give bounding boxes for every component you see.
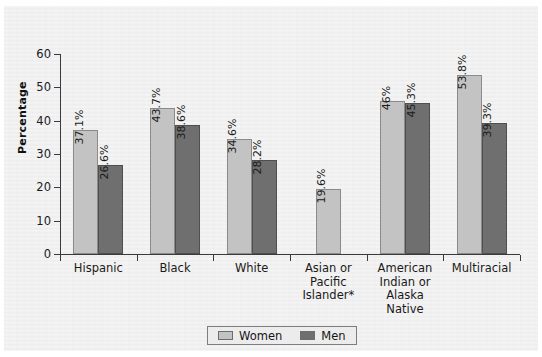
- y-tick-label: 20: [36, 180, 51, 194]
- legend-swatch-men-icon: [300, 331, 315, 340]
- x-tick-mark: [290, 255, 291, 261]
- x-tick-mark: [520, 255, 521, 261]
- legend-entry-men: Men: [300, 329, 345, 343]
- y-tick-label: 10: [36, 214, 51, 228]
- y-tick-mark: [54, 154, 60, 155]
- category-label-line: Islander*: [290, 289, 367, 303]
- category-label: Hispanic: [60, 262, 137, 276]
- y-tick-label: 40: [36, 114, 51, 128]
- bar-men: 28.2%: [252, 160, 277, 254]
- y-tick-label: 60: [36, 47, 51, 61]
- bar-women: 46%: [380, 101, 405, 254]
- legend-label-women: Women: [239, 329, 282, 343]
- y-tick-mark: [54, 187, 60, 188]
- bar-value-label: 39.3%: [481, 103, 494, 138]
- chart-legend: Women Men: [207, 326, 357, 345]
- y-tick-mark: [54, 54, 60, 55]
- bar-value-label: 26.6%: [98, 145, 111, 180]
- category-label-line: Indian or: [367, 276, 444, 290]
- y-tick-mark: [54, 87, 60, 88]
- y-tick-mark: [54, 221, 60, 222]
- legend-entry-women: Women: [218, 329, 282, 343]
- category-label: AmericanIndian orAlaskaNative: [367, 262, 444, 316]
- bar-value-label: 43.7%: [150, 88, 163, 123]
- category-label-line: Multiracial: [443, 262, 520, 276]
- bar-value-label: 34.6%: [226, 118, 239, 153]
- bar-women: 43.7%: [150, 108, 175, 254]
- y-axis-line: [60, 54, 61, 254]
- x-tick-mark: [443, 255, 444, 261]
- bar-value-label: 37.1%: [73, 110, 86, 145]
- x-tick-mark: [60, 255, 61, 261]
- y-axis-title: Percentage: [16, 81, 29, 154]
- y-tick-label: 50: [36, 80, 51, 94]
- bar-women: 37.1%: [73, 130, 98, 254]
- category-label-line: White: [213, 262, 290, 276]
- x-tick-mark: [367, 255, 368, 261]
- category-label-line: Pacific: [290, 276, 367, 290]
- bar-women: 53.8%: [457, 75, 482, 254]
- chart-figure: Percentage 0102030405060 37.1%26.6%43.7%…: [4, 6, 538, 351]
- legend-label-men: Men: [321, 329, 345, 343]
- legend-swatch-women-icon: [218, 331, 233, 340]
- category-label-line: American: [367, 262, 444, 276]
- x-tick-mark: [213, 255, 214, 261]
- bar-value-label: 38.6%: [175, 105, 188, 140]
- bar-men: 38.6%: [175, 125, 200, 254]
- x-tick-mark: [137, 255, 138, 261]
- bar-value-label: 28.2%: [251, 140, 264, 175]
- y-tick-label: 30: [36, 147, 51, 161]
- category-label-line: Native: [367, 303, 444, 317]
- category-label: Asian orPacificIslander*: [290, 262, 367, 303]
- category-label-line: Black: [137, 262, 214, 276]
- bar-women: 19.6%: [316, 189, 341, 254]
- bar-value-label: 19.6%: [315, 168, 328, 203]
- bar-women: 34.6%: [227, 139, 252, 254]
- y-tick-mark: [54, 121, 60, 122]
- bar-value-label: 45.3%: [405, 83, 418, 118]
- category-label-line: Hispanic: [60, 262, 137, 276]
- bar-men: 45.3%: [405, 103, 430, 254]
- category-label: White: [213, 262, 290, 276]
- category-label-line: Alaska: [367, 289, 444, 303]
- y-tick-label: 0: [44, 247, 51, 261]
- bar-men: 39.3%: [482, 123, 507, 254]
- plot-area: 0102030405060 37.1%26.6%43.7%38.6%34.6%2…: [60, 48, 520, 254]
- category-label: Multiracial: [443, 262, 520, 276]
- category-label-line: Asian or: [290, 262, 367, 276]
- bar-value-label: 53.8%: [456, 54, 469, 89]
- category-label: Black: [137, 262, 214, 276]
- bar-men: 26.6%: [98, 165, 123, 254]
- bar-value-label: 46%: [380, 85, 393, 109]
